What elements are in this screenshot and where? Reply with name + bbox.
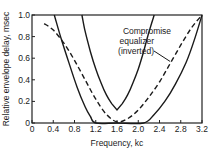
x-axis-ticks: 00.40.81.21.62.02.42.83.2	[30, 120, 209, 134]
annotation-text: (inverted)	[118, 46, 154, 56]
x-tick-label: 2.4	[154, 124, 166, 134]
plot-border	[32, 15, 202, 123]
x-tick-label: 3.2	[196, 124, 208, 134]
annotation-text: Compromise	[123, 26, 171, 36]
annotation-leader-line	[154, 51, 170, 61]
x-tick-label: 0.4	[47, 124, 59, 134]
x-tick-label: 0.8	[69, 124, 81, 134]
y-tick-label: 0.8	[18, 32, 30, 42]
y-axis-title: Relative envelope delay, msec	[1, 11, 11, 126]
y-tick-label: 0	[25, 118, 30, 128]
annotation-text: equalizer	[120, 36, 155, 46]
x-tick-label: 2.0	[132, 124, 144, 134]
x-tick-label: 2.8	[175, 124, 187, 134]
y-tick-label: 1.0	[18, 10, 30, 20]
y-tick-label: 0.4	[18, 75, 30, 85]
y-tick-label: 0.6	[18, 53, 30, 63]
plot-frame	[32, 15, 202, 123]
x-tick-label: 1.6	[111, 124, 123, 134]
envelope-delay-chart: 00.40.81.21.62.02.42.83.2 00.20.40.60.81…	[0, 0, 210, 154]
x-axis-title: Frequency, kc	[91, 138, 145, 148]
x-tick-label: 1.2	[90, 124, 102, 134]
y-tick-label: 0.2	[18, 96, 30, 106]
annotation-layer: Compromiseequalizer(inverted)	[118, 26, 171, 61]
x-tick-label: 0	[30, 124, 35, 134]
